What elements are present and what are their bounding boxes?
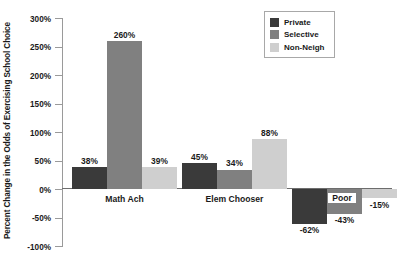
y-tick-label-neg100: -100% [27, 242, 51, 251]
plot-area: 300% 250% 200% 150% 100% 50% 0% -50% -10… [62, 18, 392, 247]
y-tick-300: 300% [55, 18, 62, 19]
bar-elem-chooser-nonneigh [252, 139, 287, 189]
legend-label-nonneigh: Non-Neigh [284, 43, 324, 52]
category-label-poor: Poor [328, 193, 356, 203]
y-tick-label-0: 0% [39, 185, 51, 194]
y-tick-label-neg50: -50% [32, 214, 51, 223]
legend: Private Selective Non-Neigh [264, 11, 335, 58]
legend-label-private: Private [284, 18, 311, 27]
y-tick-50: 50% [55, 161, 62, 162]
bar-math-ach-private [72, 167, 107, 189]
bar-value-math-ach-private: 38% [72, 156, 107, 166]
category-label-math-ach: Math Ach [87, 194, 162, 204]
legend-item-nonneigh: Non-Neigh [270, 41, 329, 54]
y-tick-label-250: 250% [30, 43, 51, 52]
legend-swatch-selective-icon [270, 30, 279, 39]
y-axis-title: Percent Change in the Odds of Exercising… [0, 0, 16, 261]
y-tick-label-100: 100% [30, 128, 51, 137]
legend-swatch-private-icon [270, 18, 279, 27]
y-tick-150: 150% [55, 104, 62, 105]
y-tick-250: 250% [55, 47, 62, 48]
legend-item-selective: Selective [270, 29, 329, 42]
bar-value-math-ach-selective: 260% [107, 30, 142, 40]
bar-elem-chooser-selective [217, 170, 252, 189]
y-tick-100: 100% [55, 132, 62, 133]
legend-item-private: Private [270, 16, 329, 29]
bar-value-elem-chooser-private: 45% [182, 152, 217, 162]
bar-value-elem-chooser-nonneigh: 88% [252, 128, 287, 138]
y-tick-0: 0% [55, 189, 62, 190]
category-label-elem-chooser: Elem Chooser [197, 194, 272, 204]
bar-value-math-ach-nonneigh: 39% [142, 156, 177, 166]
legend-swatch-nonneigh-icon [270, 43, 279, 52]
legend-label-selective: Selective [284, 30, 319, 39]
y-tick-label-50: 50% [35, 157, 51, 166]
bar-value-poor-private: -62% [292, 225, 327, 235]
y-tick-neg50: -50% [55, 218, 62, 219]
y-tick-200: 200% [55, 75, 62, 76]
bar-value-poor-nonneigh: -15% [362, 200, 397, 210]
bar-math-ach-nonneigh [142, 167, 177, 189]
bar-value-poor-selective: -43% [327, 215, 362, 225]
y-tick-label-150: 150% [30, 100, 51, 109]
bar-chart-figure: Percent Change in the Odds of Exercising… [0, 0, 397, 261]
bar-poor-private [292, 189, 327, 224]
bar-math-ach-selective [107, 41, 142, 189]
y-tick-neg100: -100% [55, 246, 62, 247]
y-axis-line [62, 18, 63, 247]
bar-value-elem-chooser-selective: 34% [217, 158, 252, 168]
bar-poor-nonneigh [362, 189, 397, 198]
bar-elem-chooser-private [182, 163, 217, 189]
y-tick-label-300: 300% [30, 14, 51, 23]
y-tick-label-200: 200% [30, 71, 51, 80]
